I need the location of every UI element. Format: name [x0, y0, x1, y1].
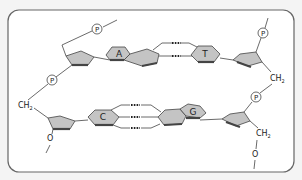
phosphate-label: P	[95, 26, 99, 34]
base-label-t: T	[201, 49, 208, 59]
phosphate-label: P	[261, 30, 265, 38]
base-label-a: A	[116, 49, 123, 59]
phosphate-top-left: P	[92, 24, 102, 34]
phosphate-label: P	[50, 77, 54, 85]
base-label-c: C	[100, 112, 106, 122]
oxygen-label: O	[47, 134, 53, 143]
diagram-frame	[8, 10, 294, 172]
phosphate-top-right: P	[258, 28, 268, 38]
ring-edge	[164, 124, 182, 125]
phosphate-bottom-right: P	[251, 92, 261, 102]
phosphate-left: P	[47, 75, 57, 85]
phosphate-label: P	[254, 94, 258, 102]
dna-diagram: P P A	[0, 0, 302, 180]
oxygen-label: O	[252, 150, 258, 159]
base-label-g: G	[190, 107, 197, 117]
